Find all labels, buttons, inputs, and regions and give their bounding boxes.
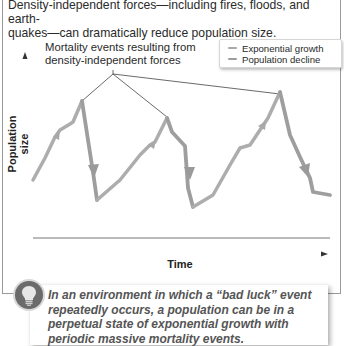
decline-segment-3 [280, 92, 330, 195]
callout-line-1: Mortality events resulting from [45, 41, 215, 54]
legend-label: Exponential growth [242, 43, 324, 54]
legend-label: Population decline [242, 54, 320, 65]
population-curve [33, 92, 330, 207]
growth-segment-1 [33, 101, 82, 180]
y-axis-label: Population size [6, 104, 30, 184]
legend-item-population-decline: Population decline [228, 53, 320, 65]
legend: Exponential growth Population decline [219, 39, 342, 68]
x-axis-label: Time [150, 258, 210, 270]
x-axis-arrow-icon [321, 252, 328, 257]
x-axis [33, 238, 330, 257]
callout-label: Mortality events resulting from density-… [45, 41, 215, 67]
callout-lines [82, 70, 280, 117]
legend-swatch-growth [228, 47, 237, 50]
y-axis-arrow-icon [23, 52, 28, 59]
callout-line-2: density-independent forces [45, 54, 215, 67]
growth-segment-2 [97, 118, 167, 200]
decline-segment-2 [167, 118, 193, 207]
lightbulb-icon [15, 281, 43, 309]
legend-swatch-decline [228, 58, 237, 61]
growth-segment-3 [193, 92, 280, 207]
tip-text: In an environment in which a “bad luck” … [48, 288, 333, 346]
decline-segment-1 [82, 101, 97, 200]
